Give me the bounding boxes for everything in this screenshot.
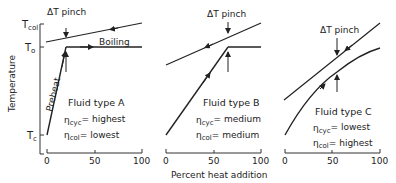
x-tick-b-100: 100 bbox=[252, 156, 269, 166]
y-axis-label: Temperature bbox=[7, 55, 17, 113]
panel-a-eta-col: ηcol= lowest bbox=[64, 130, 120, 142]
panel-c-title: Fluid type C bbox=[315, 106, 372, 117]
pinch-label-c: ΔT pinch bbox=[320, 25, 359, 35]
collector-line-b bbox=[166, 23, 261, 65]
panel-c-eta-col: ηcol= highest bbox=[313, 138, 373, 150]
panel-b-title: Fluid type B bbox=[203, 97, 260, 108]
panel-c bbox=[284, 23, 380, 153]
x-tick-b-0: 0 bbox=[163, 156, 169, 166]
panel-a-eta-cyc: ηcyc= highest bbox=[64, 114, 126, 127]
y-tick-t-c: Tc bbox=[26, 130, 37, 143]
panel-b-eta-cyc: ηcyc= medium bbox=[196, 114, 261, 127]
y-tick-t-o: To bbox=[24, 42, 35, 55]
x-tick-c-50: 50 bbox=[327, 156, 339, 166]
heat-exchange-diagram: Tcol To Tc Temperature ΔT pinch Boiling … bbox=[0, 0, 396, 183]
x-axis-label: Percent heat addition bbox=[171, 170, 268, 180]
x-tick-a-100: 100 bbox=[133, 156, 150, 166]
y-axis bbox=[40, 24, 44, 154]
x-tick-a-0: 0 bbox=[44, 156, 50, 166]
pinch-label-a: ΔT pinch bbox=[47, 7, 86, 17]
x-tick-a-50: 50 bbox=[89, 156, 101, 166]
y-tick-t-col: Tcol bbox=[21, 19, 38, 32]
boiling-label: Boiling bbox=[99, 37, 130, 47]
panel-b-eta-col: ηcol= medium bbox=[196, 130, 259, 142]
panel-c-eta-cyc: ηcyc= lowest bbox=[313, 122, 371, 135]
panel-a-title: Fluid type A bbox=[68, 97, 125, 108]
preheat-label: Preheat bbox=[44, 76, 62, 112]
x-tick-b-50: 50 bbox=[208, 156, 220, 166]
x-tick-c-0: 0 bbox=[282, 156, 288, 166]
x-tick-c-100: 100 bbox=[371, 156, 388, 166]
pinch-label-b: ΔT pinch bbox=[207, 9, 246, 19]
